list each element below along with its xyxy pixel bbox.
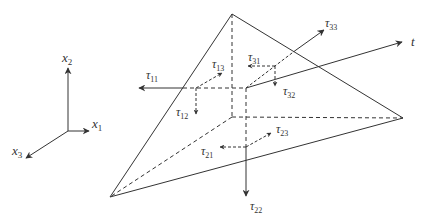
x1-axis-label: x1 — [91, 116, 102, 133]
x3-axis-arrow — [26, 131, 68, 158]
stress-tetrahedron-diagram: x2 x1 x3 τ11 τ13 τ12 τ33 τ31 τ32 t τ22 τ… — [0, 0, 430, 220]
x3-axis-label: x3 — [11, 143, 23, 160]
hidden-edge-to-right — [232, 117, 403, 118]
tau32-label: τ32 — [283, 84, 295, 100]
tau21-label: τ21 — [201, 144, 213, 160]
traction-vector-label: t — [411, 34, 415, 49]
tau31-label: τ31 — [248, 50, 260, 66]
tau23-arrow — [246, 133, 271, 147]
coordinate-axes — [26, 68, 89, 158]
tau13-label: τ13 — [212, 57, 224, 73]
tau23-label: τ23 — [276, 122, 288, 138]
hidden-edges — [110, 14, 403, 197]
tau33-arrow — [296, 30, 324, 50]
tau13-arrow — [196, 73, 222, 88]
tau22-label: τ22 — [250, 199, 262, 215]
x2-axis-label: x2 — [61, 50, 72, 67]
edge-bottomleft-right — [110, 118, 403, 197]
traction-vector-arrow — [246, 42, 402, 88]
tau33-arrow-hidden — [246, 50, 296, 88]
tau12-label: τ12 — [176, 105, 188, 121]
hidden-edge-to-bottomleft — [110, 117, 232, 197]
tetrahedron-outline — [110, 14, 403, 197]
tau33-label: τ33 — [325, 16, 337, 32]
tau11-label: τ11 — [146, 68, 158, 84]
